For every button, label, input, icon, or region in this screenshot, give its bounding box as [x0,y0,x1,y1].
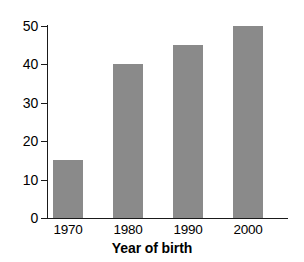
y-axis-label-30: 30 [0,96,38,110]
x-axis-label-1970: 1970 [38,222,98,238]
bar-1970 [53,160,83,218]
x-axis-label-1990: 1990 [158,222,218,238]
y-axis-label-0: 0 [0,211,38,225]
bar-chart: 50 40 30 20 10 0 1970 1980 1990 2000 Yea… [0,0,304,262]
y-axis-label-10: 10 [0,173,38,187]
x-axis-label-1980: 1980 [98,222,158,238]
plot-area [47,25,288,218]
x-axis-line [47,218,288,219]
y-axis-label-40: 40 [0,57,38,71]
y-axis-tick-0 [41,218,47,219]
bar-2000 [233,26,263,218]
bar-1980 [113,64,143,218]
bar-1990 [173,45,203,218]
x-axis-title: Year of birth [0,240,304,256]
y-axis-label-20: 20 [0,134,38,148]
x-axis-label-2000: 2000 [218,222,278,238]
y-axis-label-50: 50 [0,19,38,33]
